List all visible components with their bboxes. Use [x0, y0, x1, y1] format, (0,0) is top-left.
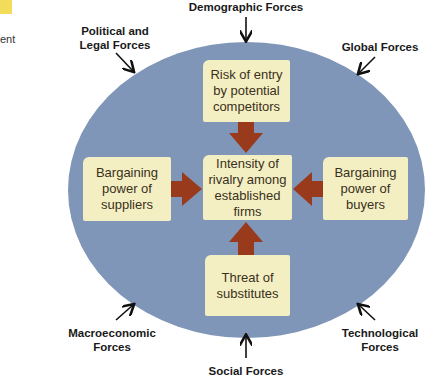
down-block-arrow-icon — [229, 122, 263, 153]
box-risk-of-entry: Risk of entry by potential competitors — [203, 60, 290, 122]
box-supplier-power: Bargaining power of suppliers — [83, 157, 171, 221]
label-technological-forces: Technological Forces — [330, 326, 430, 354]
right-block-arrow-icon — [171, 172, 202, 206]
box-rivalry: Intensity of rivalry among established f… — [203, 155, 292, 220]
label-social-forces: Social Forces — [195, 364, 297, 378]
label-macroeconomic-forces: Macroeconomic Forces — [62, 326, 162, 354]
box-buyer-power: Bargaining power of buyers — [323, 157, 408, 220]
label-demographic-forces: Demographic Forces — [180, 0, 312, 14]
up-block-arrow-icon — [229, 222, 263, 255]
political-arrow-icon — [116, 53, 133, 71]
label-global-forces: Global Forces — [335, 40, 425, 54]
box-substitutes: Threat of substitutes — [205, 255, 290, 316]
macroeconomic-arrow-icon — [116, 305, 133, 320]
label-political-legal-forces: Political and Legal Forces — [65, 24, 165, 52]
left-block-arrow-icon — [293, 172, 323, 206]
global-arrow-icon — [359, 57, 375, 73]
technological-arrow-icon — [359, 305, 375, 320]
